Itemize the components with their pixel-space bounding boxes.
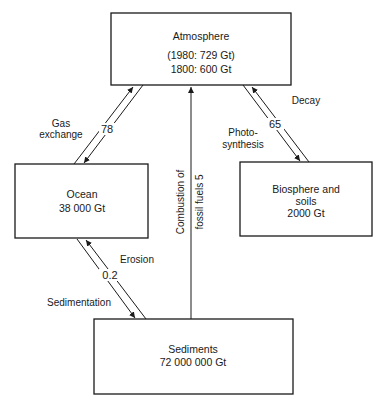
sedimentation-label: Sedimentation bbox=[47, 297, 111, 308]
ocean-value: 38 000 Gt bbox=[59, 202, 105, 214]
atmosphere-1980-value: (1980: 729 Gt) bbox=[167, 49, 235, 61]
biosphere-node: Biosphere and soils 2000 Gt bbox=[240, 162, 372, 236]
ocean-title: Ocean bbox=[67, 188, 98, 200]
sediments-node: Sediments 72 000 000 Gt bbox=[94, 319, 293, 394]
gas-exchange-label-1: Gas bbox=[52, 118, 70, 129]
decay-photosynthesis-flow: 65 Decay Photo- synthesis bbox=[222, 85, 320, 162]
atmosphere-title: Atmosphere bbox=[173, 30, 230, 42]
photosynthesis-label-2: synthesis bbox=[222, 139, 264, 150]
decay-photosynthesis-value: 65 bbox=[269, 118, 281, 130]
photosynthesis-label-1: Photo- bbox=[228, 127, 257, 138]
atmosphere-node: Atmosphere (1980: 729 Gt) 1800: 600 Gt bbox=[111, 13, 291, 85]
biosphere-title-2: soils bbox=[295, 195, 316, 207]
ocean-box bbox=[15, 164, 148, 238]
gas-exchange-value: 78 bbox=[101, 123, 113, 135]
erosion-sedimentation-flow: 0.2 Erosion Sedimentation bbox=[47, 239, 154, 319]
ocean-node: Ocean 38 000 Gt bbox=[15, 164, 148, 238]
sediments-title: Sediments bbox=[168, 343, 218, 355]
fossil-fuels-label-2: fossil fuels 5 bbox=[194, 174, 205, 229]
sediments-value: 72 000 000 Gt bbox=[160, 356, 227, 368]
fossil-fuels-flow: Combustion of fossil fuels 5 bbox=[175, 87, 205, 319]
erosion-label: Erosion bbox=[120, 254, 154, 265]
biosphere-value: 2000 Gt bbox=[287, 207, 324, 219]
carbon-cycle-diagram: Atmosphere (1980: 729 Gt) 1800: 600 Gt O… bbox=[0, 0, 381, 404]
biosphere-title: Biosphere and bbox=[272, 183, 340, 195]
atmosphere-1800-value: 1800: 600 Gt bbox=[171, 63, 232, 75]
gas-exchange-label-2: exchange bbox=[39, 129, 83, 140]
erosion-sedimentation-value: 0.2 bbox=[102, 269, 117, 281]
decay-label: Decay bbox=[292, 95, 320, 106]
gas-exchange-flow: 78 Gas exchange bbox=[39, 85, 143, 164]
fossil-fuels-label-1: Combustion of bbox=[175, 170, 186, 235]
